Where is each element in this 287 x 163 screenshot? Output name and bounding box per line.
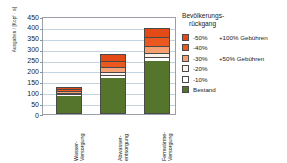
y-tick-label: 200 [27, 68, 39, 75]
y-tick-label: 0 [35, 112, 39, 119]
y-tick-mark [40, 51, 43, 52]
legend-label: Bestand [193, 86, 219, 93]
bar-segment[interactable] [145, 61, 169, 113]
legend-swatch [182, 44, 189, 51]
legend-swatch [182, 34, 189, 41]
y-tick-mark [40, 72, 43, 73]
y-tick-label: 250 [27, 57, 39, 64]
legend-title: Bevölkerungs- rückgang [182, 12, 286, 28]
legend-item[interactable]: Bestand [182, 85, 286, 96]
bar-stack[interactable] [144, 28, 170, 114]
y-tick-mark [40, 29, 43, 30]
x-axis-label: Abwasser-entsorgung [117, 115, 129, 161]
x-axis-label: Wasser-Versorgung [73, 115, 85, 161]
x-axis-label-line2: Versorgung [167, 115, 173, 161]
y-tick-mark [40, 94, 43, 95]
x-axis-label-line2: Versorgung [79, 115, 85, 161]
y-tick-label: 150 [27, 79, 39, 86]
legend-label: -50% [193, 34, 219, 41]
bar-stack[interactable] [56, 87, 82, 114]
legend: Bevölkerungs- rückgang -50%+100% Gebühre… [182, 12, 286, 95]
legend-item[interactable]: -30%+50% Gebühren [182, 53, 286, 64]
legend-label: -20% [193, 65, 219, 72]
y-tick-mark [40, 62, 43, 63]
x-axis-category-labels: Wasser-VersorgungAbwasser-entsorgungFern… [42, 116, 176, 163]
bar-segment[interactable] [145, 37, 169, 46]
legend-swatch [182, 76, 189, 83]
x-axis-label-line2: entsorgung [123, 115, 129, 161]
y-tick-label: 300 [27, 46, 39, 53]
legend-item[interactable]: -40% [182, 43, 286, 54]
legend-title-line2: rückgang [182, 20, 286, 28]
legend-item[interactable]: -50%+100% Gebühren [182, 32, 286, 43]
legend-item[interactable]: -20% [182, 64, 286, 75]
y-tick-mark [40, 18, 43, 19]
x-axis-label: Fernwärme-Versorgung [161, 115, 173, 161]
legend-swatch [182, 86, 189, 93]
bar-segment[interactable] [145, 46, 169, 53]
legend-title-line1: Bevölkerungs- [182, 12, 286, 20]
y-tick-mark [40, 40, 43, 41]
bar-segment[interactable] [101, 54, 125, 61]
bar-segment[interactable] [57, 96, 81, 113]
legend-item[interactable]: -10% [182, 74, 286, 85]
legend-swatch [182, 55, 189, 62]
y-tick-label: 400 [27, 24, 39, 31]
y-tick-mark [40, 83, 43, 84]
legend-annotation: +50% Gebühren [219, 55, 264, 62]
chart-container: Ausgaben / [Kopf · a] 050100150200250300… [0, 0, 287, 163]
bar-segment[interactable] [145, 28, 169, 37]
y-tick-label: 100 [27, 90, 39, 97]
y-tick-label: 450 [27, 14, 39, 21]
legend-label: -30% [193, 55, 219, 62]
y-tick-mark [40, 105, 43, 106]
plot-area [42, 17, 176, 115]
bar-segment[interactable] [101, 78, 125, 113]
y-axis-tick-labels: 050100150200250300350400450 [13, 10, 39, 122]
y-tick-label: 350 [27, 35, 39, 42]
legend-swatch [182, 65, 189, 72]
legend-rows: -50%+100% Gebühren-40%-30%+50% Gebühren-… [182, 32, 286, 95]
legend-label: -10% [193, 76, 219, 83]
legend-label: -40% [193, 44, 219, 51]
bar-stack[interactable] [100, 54, 126, 114]
legend-annotation: +100% Gebühren [219, 34, 268, 41]
y-tick-label: 50 [31, 101, 39, 108]
